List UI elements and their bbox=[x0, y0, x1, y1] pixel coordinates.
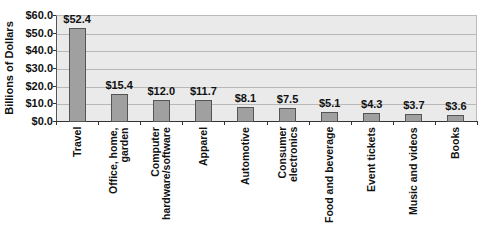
x-tick-mark bbox=[140, 121, 141, 125]
x-tick-mark bbox=[56, 121, 57, 125]
y-tick-label: $0.0 bbox=[32, 115, 53, 127]
x-category-label-text: Food and beverage bbox=[324, 127, 335, 223]
y-tick-label: $30.0 bbox=[25, 62, 53, 74]
y-tick-mark bbox=[53, 15, 56, 16]
y-tick-mark bbox=[53, 33, 56, 34]
bar-value-label: $52.4 bbox=[63, 13, 91, 25]
x-category-label-text: Travel bbox=[72, 127, 83, 157]
bar-value-label: $7.5 bbox=[277, 93, 298, 105]
bar bbox=[69, 28, 86, 122]
y-axis-label: Billions of Dollars bbox=[2, 15, 16, 121]
gridline bbox=[57, 34, 476, 35]
bar-value-label: $3.7 bbox=[403, 99, 424, 111]
bar bbox=[279, 108, 296, 122]
gridline bbox=[57, 69, 476, 70]
bar bbox=[195, 100, 212, 122]
bar-value-label: $5.1 bbox=[319, 97, 340, 109]
x-tick-mark bbox=[435, 121, 436, 125]
x-category-label-text: Apparel bbox=[198, 127, 209, 166]
x-tick-mark bbox=[309, 121, 310, 125]
y-tick-label: $60.0 bbox=[25, 9, 53, 21]
y-tick-label: $40.0 bbox=[25, 44, 53, 56]
bar bbox=[321, 112, 338, 122]
y-tick-mark bbox=[53, 50, 56, 51]
y-tick-label: $50.0 bbox=[25, 27, 53, 39]
x-category-label-text: Automotive bbox=[240, 127, 251, 185]
x-tick-mark bbox=[393, 121, 394, 125]
x-category-label-text: Books bbox=[450, 127, 461, 159]
y-tick-mark bbox=[53, 86, 56, 87]
bar-value-label: $15.4 bbox=[105, 79, 133, 91]
x-tick-mark bbox=[477, 121, 478, 125]
x-tick-mark bbox=[182, 121, 183, 125]
x-category-label-text: Event tickets bbox=[366, 127, 377, 192]
x-category-label-text: Computer hardware/software bbox=[150, 127, 172, 220]
x-tick-mark bbox=[267, 121, 268, 125]
bar-value-label: $3.6 bbox=[445, 100, 466, 112]
x-tick-mark bbox=[351, 121, 352, 125]
bar bbox=[363, 113, 380, 122]
bar bbox=[447, 115, 464, 122]
x-category-label-text: Office, home, garden bbox=[108, 127, 130, 194]
x-tick-mark bbox=[224, 121, 225, 125]
y-tick-label: $20.0 bbox=[25, 80, 53, 92]
bar bbox=[237, 107, 254, 122]
bar-value-label: $4.3 bbox=[361, 98, 382, 110]
bar bbox=[111, 94, 128, 122]
y-axis-label-text: Billions of Dollars bbox=[3, 21, 15, 115]
bar-value-label: $8.1 bbox=[235, 92, 256, 104]
bar bbox=[153, 100, 170, 122]
gridline bbox=[57, 51, 476, 52]
bar bbox=[405, 114, 422, 122]
y-tick-label: $10.0 bbox=[25, 97, 53, 109]
x-category-label-text: Consumer electronics bbox=[277, 127, 299, 182]
x-category-label-text: Music and videos bbox=[408, 127, 419, 215]
y-tick-mark bbox=[53, 68, 56, 69]
y-tick-mark bbox=[53, 103, 56, 104]
x-tick-mark bbox=[98, 121, 99, 125]
bar-value-label: $12.0 bbox=[147, 85, 175, 97]
bar-value-label: $11.7 bbox=[190, 85, 217, 97]
